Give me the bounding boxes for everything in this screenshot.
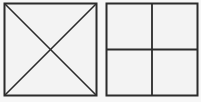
square-with-quadrants [107, 4, 198, 96]
square-with-diagonals [5, 4, 97, 96]
diagram-canvas [0, 0, 201, 102]
